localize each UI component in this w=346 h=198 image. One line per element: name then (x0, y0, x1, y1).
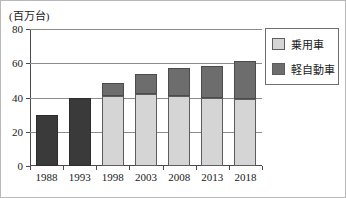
legend-swatch-icon (272, 38, 285, 50)
y-tick-label: 80 (12, 23, 23, 35)
bar-segment-passenger[interactable] (135, 94, 157, 166)
bar-segment-kei[interactable] (168, 68, 190, 95)
x-tick-mark (129, 166, 130, 170)
bar-segment-passenger[interactable] (102, 96, 124, 166)
bar-segment-kei[interactable] (234, 61, 256, 100)
x-tick-label: 1993 (69, 171, 91, 183)
x-tick-mark (96, 166, 97, 170)
y-tick-label: 0 (18, 160, 24, 172)
legend-label: 乗用車 (291, 36, 324, 52)
bar-segment-kei[interactable] (201, 66, 223, 98)
bar-segment-kei[interactable] (135, 74, 157, 95)
legend-label: 軽自動車 (291, 61, 335, 77)
legend-item[interactable]: 乗用車 (272, 36, 333, 52)
bar-segment-passenger[interactable] (234, 99, 256, 166)
bar-segment-passenger[interactable] (168, 96, 190, 166)
plot-area: 020406080 1988199319982003200820132018 (30, 29, 262, 166)
y-tick-mark (26, 98, 30, 99)
bar-segment-kei[interactable] (102, 83, 124, 96)
x-tick-label: 1998 (102, 171, 124, 183)
x-tick-label: 2013 (201, 171, 223, 183)
y-tick-mark (26, 132, 30, 133)
bar-segment-passenger[interactable] (201, 98, 223, 167)
y-tick-label: 60 (12, 57, 23, 69)
bar-segment-kei[interactable] (69, 98, 91, 166)
x-tick-mark (163, 166, 164, 170)
y-tick-mark (26, 29, 30, 30)
x-tick-mark (229, 166, 230, 170)
x-tick-mark (30, 166, 31, 170)
y-axis-unit-caption: (百万台) (9, 7, 49, 23)
y-tick-label: 40 (12, 92, 23, 104)
legend-swatch-icon (272, 63, 285, 75)
x-tick-mark (196, 166, 197, 170)
gridline (30, 63, 262, 64)
x-tick-mark (262, 166, 263, 170)
gridline (30, 29, 262, 30)
y-tick-label: 20 (12, 126, 23, 138)
chart-screenshot: (百万台) 020406080 198819931998200320082013… (0, 0, 346, 198)
x-tick-mark (63, 166, 64, 170)
y-tick-mark (26, 63, 30, 64)
x-tick-label: 2003 (135, 171, 157, 183)
legend-item[interactable]: 軽自動車 (272, 61, 333, 77)
chart-legend: 乗用車軽自動車 (265, 28, 339, 85)
x-tick-label: 2018 (234, 171, 256, 183)
x-tick-label: 1988 (36, 171, 58, 183)
x-tick-label: 2008 (168, 171, 190, 183)
bar-segment-kei[interactable] (36, 115, 58, 166)
